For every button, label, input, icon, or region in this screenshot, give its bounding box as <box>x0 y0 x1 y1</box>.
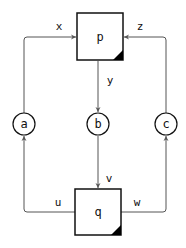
node-c[interactable]: c <box>155 113 177 135</box>
edge-u-label: u <box>55 196 62 209</box>
edge-x-label: x <box>56 20 63 33</box>
node-c-label: c <box>162 117 169 131</box>
edge-x <box>24 37 76 113</box>
node-a-label: a <box>20 117 27 131</box>
edge-z-label: z <box>137 20 144 33</box>
edge-w <box>121 136 166 212</box>
edge-u <box>24 136 75 212</box>
node-b-label: b <box>94 117 101 131</box>
edge-z <box>124 37 166 113</box>
edge-w-label: w <box>134 196 141 209</box>
node-q-label: q <box>94 205 101 219</box>
node-q[interactable]: q <box>75 189 121 235</box>
node-p-label: p <box>96 30 103 44</box>
edge-v-label: v <box>106 172 113 185</box>
node-b[interactable]: b <box>87 113 109 135</box>
edge-y-label: y <box>107 74 114 87</box>
node-a[interactable]: a <box>13 113 35 135</box>
diagram-canvas: p q a b c x z y v u w <box>0 0 186 248</box>
node-p[interactable]: p <box>77 13 123 60</box>
